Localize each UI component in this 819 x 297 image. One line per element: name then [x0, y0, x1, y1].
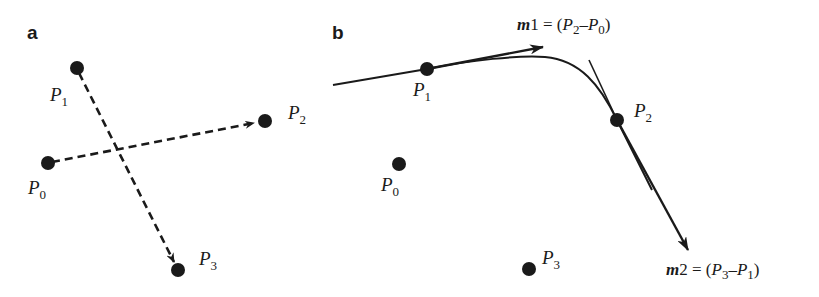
point-b-p0	[392, 157, 406, 171]
label-a-p3: P3	[198, 248, 217, 273]
panel-label-b: b	[332, 22, 344, 43]
dashed-arrow-p1-p3	[79, 73, 174, 262]
label-b-p2: P2	[633, 100, 652, 125]
label-b-p1: P1	[412, 79, 431, 104]
tangent-arrow-m2	[617, 120, 688, 250]
label-a-p0: P0	[27, 177, 46, 202]
panel-a: a P0 P1 P2 P3	[27, 22, 306, 277]
point-b-p2	[610, 113, 624, 127]
panel-label-a: a	[27, 22, 38, 43]
label-a-p1: P1	[49, 84, 68, 109]
panel-b: b P0 P1 P2 P3 m1 = (P2–P0) m2 = (P3–P1)	[332, 15, 759, 282]
spline-tangent-diagram: a P0 P1 P2 P3 b P0 P1 P2 P3 m1 = (P2–P0)	[0, 0, 819, 297]
point-a-p3	[171, 263, 185, 277]
point-a-p1	[70, 61, 84, 75]
label-b-p0: P0	[380, 174, 399, 199]
equation-m1: m1 = (P2–P0)	[517, 15, 610, 37]
equation-m2: m2 = (P3–P1)	[666, 260, 759, 282]
dashed-arrow-p0-p2	[52, 123, 254, 162]
label-a-p2: P2	[287, 102, 306, 127]
point-b-p1	[420, 62, 434, 76]
label-b-p3: P3	[541, 247, 560, 272]
point-a-p0	[41, 156, 55, 170]
spline-curve	[333, 57, 652, 190]
point-b-p3	[522, 262, 536, 276]
tangent-arrow-m1	[427, 47, 543, 69]
point-a-p2	[258, 114, 272, 128]
tangent-line-p2	[589, 60, 617, 120]
